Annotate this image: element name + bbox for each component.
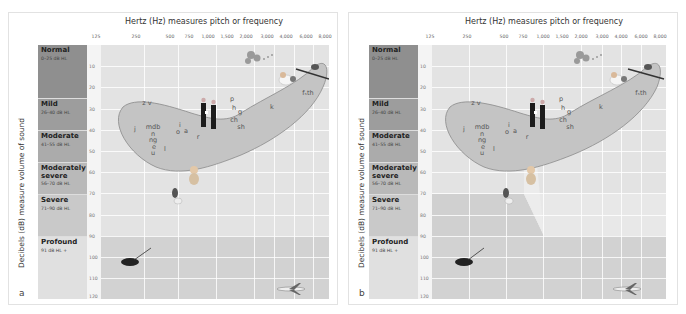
leaves-icon: [245, 51, 273, 64]
db-tick: 20: [89, 85, 95, 90]
db-tick: 30: [89, 107, 95, 112]
airplane-icon: [613, 283, 641, 295]
phoneme-label: r: [526, 133, 529, 141]
category-profound: Profound 91 dB HL +: [38, 236, 87, 299]
frequency-axis: 125 250 500 750 1,000 1,500 2,000 3,000 …: [9, 34, 339, 44]
phoneme-label: k: [270, 103, 274, 111]
speech-banana-layer: [432, 45, 666, 299]
audiogram-panel-b: Hertz (Hz) measures pitch or frequency 1…: [348, 12, 678, 305]
phoneme-label: fₛth: [635, 89, 646, 97]
category-normal: Normal 0–25 dB HL: [369, 45, 418, 98]
freq-tick: 1,000: [201, 34, 214, 39]
phoneme-label: u: [151, 149, 155, 157]
airplane-icon: [277, 283, 305, 295]
phoneme-label: i: [508, 121, 510, 129]
freq-tick: 8,000: [318, 34, 331, 39]
x-axis-title: Hertz (Hz) measures pitch or frequency: [409, 17, 679, 26]
decibel-axis: 10 20 30 40 50 60 70 80 90 100 110 120: [418, 45, 432, 299]
phoneme-label: l: [493, 145, 495, 153]
baby-sitting-icon: [526, 166, 536, 185]
freq-tick: 1,500: [220, 34, 233, 39]
freq-tick: 2,000: [574, 34, 587, 39]
db-tick: 30: [420, 107, 426, 112]
db-tick: 120: [89, 294, 98, 299]
db-tick: 50: [89, 149, 95, 154]
y-axis-title: Decibels (dB) measure volume of sound: [355, 98, 367, 288]
freq-tick: 2,000: [239, 34, 252, 39]
category-mild: Mild 26–40 dB HL: [38, 98, 87, 130]
db-tick: 110: [420, 276, 429, 281]
phoneme-label: a: [184, 127, 188, 135]
db-tick: 90: [420, 234, 426, 239]
phoneme-label: l: [164, 145, 166, 153]
freq-tick: 125: [426, 34, 435, 39]
freq-tick: 6,000: [634, 34, 647, 39]
freq-tick: 6,000: [299, 34, 312, 39]
db-tick: 90: [89, 234, 95, 239]
category-moderate: Moderate 41–55 dB HL: [38, 130, 87, 162]
freq-tick: 750: [185, 34, 194, 39]
phoneme-label: r: [197, 133, 200, 141]
phoneme-label: fₛth: [302, 89, 313, 97]
lawn-mower-icon: [121, 248, 151, 266]
freq-tick: 4,000: [279, 34, 292, 39]
audiogram-plot-area: z v j mdb n ng e u l o i a r p h g ch sh…: [432, 45, 666, 299]
freq-tick: 500: [500, 34, 509, 39]
phoneme-label: sh: [566, 123, 574, 131]
category-normal: Normal 0–25 dB HL: [38, 45, 87, 98]
frequency-axis: 125 250 500 750 1,000 1,500 2,000 3,000 …: [349, 34, 679, 44]
phoneme-label: z v: [471, 99, 480, 107]
freq-tick: 750: [519, 34, 528, 39]
freq-tick: 4,000: [614, 34, 627, 39]
db-tick: 100: [89, 255, 98, 260]
db-tick: 70: [89, 191, 95, 196]
x-axis-title: Hertz (Hz) measures pitch or frequency: [69, 17, 339, 26]
phoneme-label: h: [561, 104, 565, 112]
db-tick: 40: [89, 128, 95, 133]
freq-tick: 1,000: [536, 34, 549, 39]
speech-banana-layer: [101, 45, 329, 299]
phoneme-label: j: [463, 125, 465, 133]
db-tick: 120: [420, 294, 429, 299]
phoneme-label: k: [599, 103, 603, 111]
phoneme-label: sh: [237, 123, 245, 131]
dog-icon: [172, 188, 182, 204]
phoneme-label: o: [176, 128, 180, 136]
phoneme-label: p: [559, 95, 563, 103]
db-tick: 70: [420, 191, 426, 196]
speech-banana-shape: [446, 63, 661, 171]
db-tick: 60: [89, 170, 95, 175]
phoneme-label: i: [179, 121, 181, 129]
phoneme-label: j: [134, 125, 136, 133]
phoneme-label: g: [567, 108, 571, 116]
phoneme-label: a: [513, 127, 517, 135]
db-tick: 100: [420, 255, 429, 260]
freq-tick: 250: [132, 34, 141, 39]
decibel-axis: 10 20 30 40 50 60 70 80 90 100 110 120: [87, 45, 101, 299]
category-moderately-severe: Moderately severe 56–70 dB HL: [38, 162, 87, 194]
hearing-level-categories: Normal 0–25 dB HL Mild 26–40 dB HL Moder…: [38, 45, 87, 299]
category-mild: Mild 26–40 dB HL: [369, 98, 418, 130]
phoneme-label: u: [480, 149, 484, 157]
panel-label: a: [19, 288, 25, 298]
category-severe: Severe 71–90 dB HL: [38, 194, 87, 236]
phoneme-label: z v: [142, 99, 151, 107]
category-moderate: Moderate 41–55 dB HL: [369, 130, 418, 162]
dog-icon: [503, 188, 513, 204]
db-tick: 40: [420, 128, 426, 133]
freq-tick: 3,000: [260, 34, 273, 39]
db-tick: 20: [420, 85, 426, 90]
freq-tick: 125: [92, 34, 101, 39]
db-tick: 60: [420, 170, 426, 175]
freq-tick: 3,000: [595, 34, 608, 39]
db-tick: 50: [420, 149, 426, 154]
leaves-icon: [574, 51, 602, 64]
lawn-mower-icon: [455, 248, 484, 266]
db-tick: 80: [89, 213, 95, 218]
phoneme-label: p: [230, 95, 234, 103]
category-moderately-severe: Moderately severe 56–70 dB HL: [369, 162, 418, 194]
db-tick: 10: [89, 64, 95, 69]
db-tick: 10: [420, 64, 426, 69]
category-severe: Severe 71–90 dB HL: [369, 194, 418, 236]
audiogram-plot-area: z v j mdb n ng e u l o i a r p h g ch sh…: [101, 45, 329, 299]
